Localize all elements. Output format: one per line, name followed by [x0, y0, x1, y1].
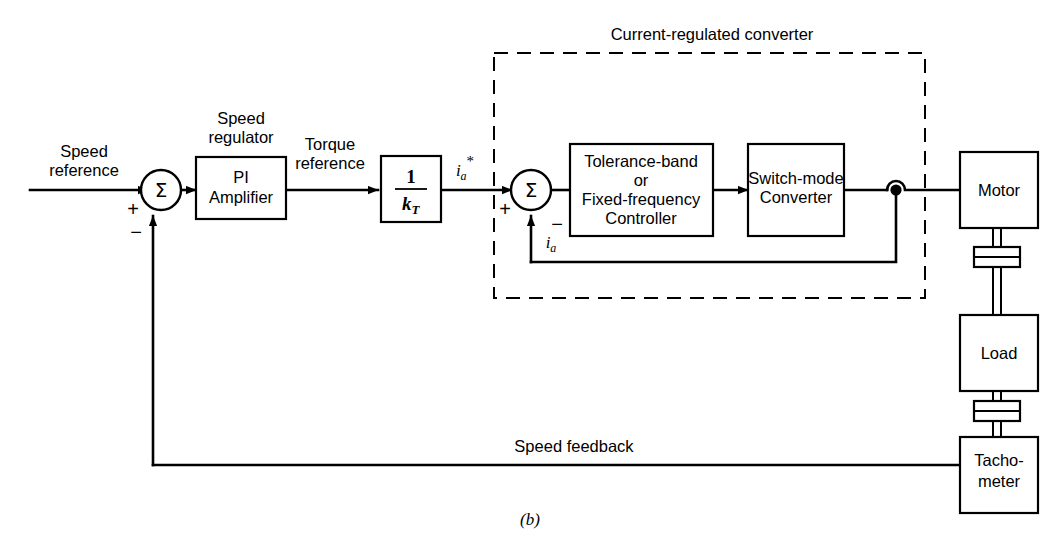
signal-label-torque-reference-line2: reference	[295, 154, 365, 172]
dashed-group-label: Current-regulated converter	[611, 25, 814, 43]
block-tachometer-line1: Tacho-	[974, 451, 1024, 469]
figure-caption: (b)	[520, 510, 540, 529]
current-error-summer-sigma: Σ	[525, 178, 538, 202]
signal-label-speed-feedback: Speed feedback	[514, 437, 634, 455]
speed-regulator-annotation-line1: Speed	[217, 109, 265, 127]
signal-label-current-reference: ia*	[456, 153, 474, 183]
signal-label-speed-reference-line1: Speed	[60, 142, 108, 160]
current-feedback-sub: a	[550, 241, 556, 255]
block-switch-mode-converter-line2: Converter	[760, 188, 833, 206]
figure-canvas: Current-regulated converter Σ + − Σ	[0, 0, 1060, 547]
current-error-summer-plus-sign: +	[499, 198, 511, 220]
signal-label-torque-reference-line1: Torque	[305, 135, 355, 153]
signal-label-speed-reference-line2: reference	[49, 161, 119, 179]
block-pi-amplifier-label-line2: Amplifier	[209, 188, 274, 206]
block-switch-mode-converter-line1: Switch-mode	[748, 169, 843, 187]
current-reference-sup: *	[467, 153, 475, 169]
denominator-sub-t: T	[412, 202, 421, 217]
block-current-controller-line3: Fixed-frequency	[582, 190, 701, 208]
block-tachometer-line2: meter	[978, 472, 1021, 490]
block-diagram: Current-regulated converter Σ + − Σ	[0, 0, 1060, 547]
current-reference-sub: a	[461, 169, 467, 183]
speed-error-summer-plus-sign: +	[127, 198, 139, 220]
block-current-controller-line1: Tolerance-band	[584, 152, 698, 170]
block-load-label: Load	[981, 344, 1018, 362]
block-motor-label: Motor	[978, 181, 1021, 199]
signal-label-current-feedback: ia	[546, 233, 557, 255]
speed-regulator-annotation-line2: regulator	[208, 128, 274, 146]
block-pi-amplifier-label-line1: PI	[233, 168, 249, 186]
speed-error-summer-minus-sign: −	[130, 221, 142, 243]
block-current-controller-line2: or	[634, 171, 649, 189]
current-error-summer-minus-sign: −	[551, 213, 563, 235]
denominator-k: k	[402, 193, 412, 214]
speed-error-summer-sigma: Σ	[155, 178, 168, 202]
block-current-controller-line4: Controller	[605, 209, 677, 227]
block-torque-constant-numerator: 1	[406, 166, 416, 187]
